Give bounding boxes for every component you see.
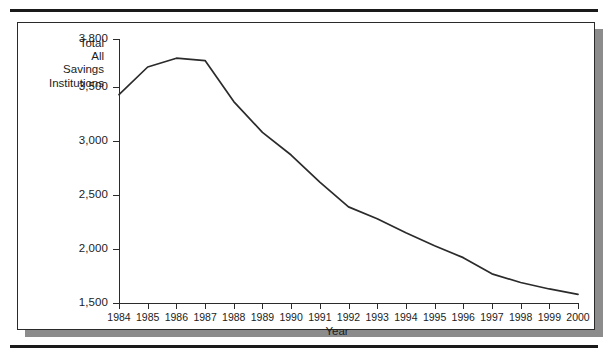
bottom-rule (10, 345, 598, 348)
top-rule (10, 9, 598, 12)
x-axis-title: Year (18, 325, 596, 337)
data-series-line (18, 23, 596, 331)
x-axis-title-text: Year (325, 325, 348, 337)
plot-area: Total All Savings Institutions 3,8003,50… (18, 23, 596, 331)
figure-container: Total All Savings Institutions 3,8003,50… (0, 0, 608, 361)
chart-box: Total All Savings Institutions 3,8003,50… (17, 22, 595, 330)
